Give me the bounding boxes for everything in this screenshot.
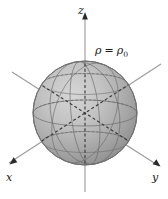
arrowhead-down-right-icon — [153, 159, 161, 166]
sphere-surface — [28, 54, 142, 172]
equals-symbol: = — [104, 44, 113, 57]
spherical-surface-figure: z x y ρ=ρ0 — [0, 0, 168, 199]
axis-label-z: z — [78, 5, 84, 16]
figure-canvas — [0, 0, 168, 199]
axis-label-x: x — [6, 172, 12, 183]
rho-naught-subscript: 0 — [123, 50, 128, 59]
axis-label-y: y — [152, 172, 158, 183]
rho-symbol: ρ — [95, 44, 101, 57]
surface-equation-label: ρ=ρ0 — [95, 44, 128, 59]
